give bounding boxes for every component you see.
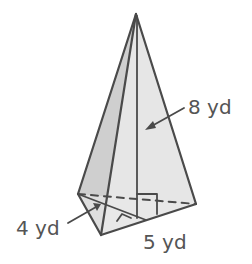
base-height-label: 4 yd [16,218,60,238]
pyramid-diagram: 8 yd 4 yd 5 yd [0,0,252,264]
height-label: 8 yd [188,97,232,117]
base-side-label: 5 yd [143,232,187,252]
